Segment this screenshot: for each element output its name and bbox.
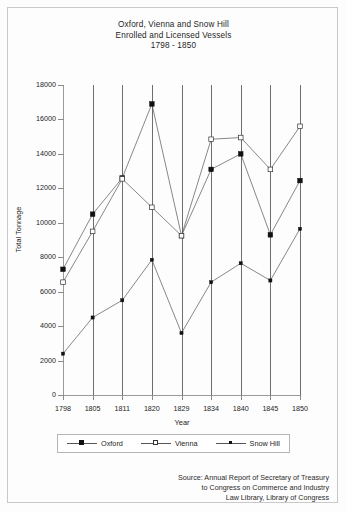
legend-label: Snow Hill: [250, 439, 280, 448]
y-axis-tick-label: 6000: [16, 288, 56, 295]
data-point-marker: [90, 229, 95, 234]
data-point-marker: [238, 135, 243, 140]
data-point-marker: [150, 258, 153, 261]
source-line-1: Source: Annual Report of Secretary of Tr…: [79, 473, 329, 483]
data-point-marker: [121, 299, 124, 302]
y-axis-tick-label: 14000: [16, 150, 56, 157]
data-point-marker: [238, 152, 243, 157]
series-line-oxford: [63, 104, 300, 269]
data-point-marker: [239, 262, 242, 265]
data-point-marker: [61, 267, 66, 272]
x-axis-title: Year: [63, 418, 301, 427]
data-point-marker: [91, 316, 94, 319]
legend-marker-icon: [141, 439, 171, 448]
y-axis-tick-label: 12000: [16, 184, 56, 191]
series-line-vienna: [63, 126, 300, 282]
y-axis-tick-label: 4000: [16, 322, 56, 329]
data-point-marker: [61, 352, 64, 355]
data-point-marker: [298, 227, 301, 230]
legend-item-oxford[interactable]: Oxford: [67, 439, 123, 448]
legend-label: Vienna: [175, 439, 198, 448]
legend-item-snow-hill[interactable]: Snow Hill: [216, 439, 280, 448]
data-point-marker: [61, 280, 66, 285]
y-axis-tick-label: 16000: [16, 115, 56, 122]
source-note: Source: Annual Report of Secretary of Tr…: [79, 473, 329, 503]
chart-legend: OxfordViennaSnow Hill: [57, 434, 290, 453]
series-layer: [63, 85, 301, 396]
y-axis-tick-label: 2000: [16, 357, 56, 364]
y-axis-tick-label: 18000: [16, 81, 56, 88]
data-point-marker: [150, 205, 155, 210]
legend-marker-icon: [67, 439, 97, 448]
legend-label: Oxford: [101, 439, 123, 448]
series-line-snow-hill: [63, 229, 300, 354]
legend-item-vienna[interactable]: Vienna: [141, 439, 198, 448]
data-point-marker: [209, 167, 214, 172]
y-axis-title: Total Tonnage: [14, 195, 23, 265]
data-point-marker: [209, 137, 214, 142]
data-point-marker: [268, 167, 273, 172]
chart-page: Oxford, Vienna and Snow Hill Enrolled an…: [0, 0, 347, 512]
source-line-2: to Congress on Commerce and Industry: [79, 483, 329, 493]
data-point-marker: [150, 102, 155, 107]
data-point-marker: [90, 212, 95, 217]
data-point-marker: [298, 178, 303, 183]
x-axis-tick-label: 1850: [280, 404, 320, 413]
legend-marker-icon: [216, 439, 246, 448]
data-point-marker: [298, 124, 303, 129]
data-point-marker: [210, 281, 213, 284]
data-point-marker: [180, 331, 183, 334]
data-point-marker: [268, 233, 273, 238]
data-point-marker: [269, 279, 272, 282]
data-point-marker: [120, 177, 125, 182]
y-axis-tick-label: 0: [16, 391, 56, 398]
data-point-marker: [179, 233, 184, 238]
source-line-3: Law Library, Library of Congress: [79, 493, 329, 503]
